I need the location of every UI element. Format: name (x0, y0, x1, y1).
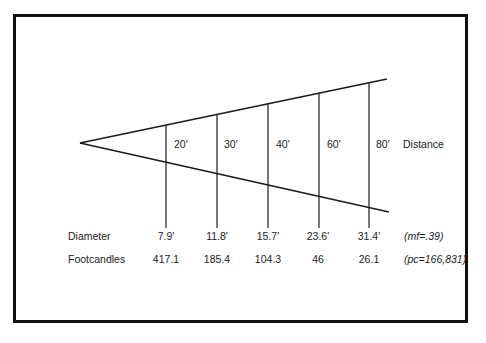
footcandles-value-30: 185.4 (204, 253, 230, 265)
distance-heading: Distance (403, 138, 444, 150)
diameter-value-20: 7.9' (158, 230, 175, 242)
cone-upper-edge (80, 79, 387, 143)
diameter-value-60: 23.6' (307, 230, 329, 242)
footcandles-value-80: 26.1 (359, 253, 379, 265)
diameter-note: (mf=.39) (404, 230, 443, 242)
diameter-value-40: 15.7' (257, 230, 279, 242)
footcandles-value-40: 104.3 (255, 253, 281, 265)
distance-label-40: 40' (276, 138, 290, 150)
light-beam-cone-diagram (0, 0, 486, 343)
diameter-value-80: 31.4' (358, 230, 380, 242)
footcandles-note: (pc=166,831) (404, 253, 466, 265)
footcandles-value-60: 46 (312, 253, 324, 265)
cone-lower-edge (80, 143, 389, 212)
diameter-value-30: 11.8' (206, 230, 228, 242)
distance-label-80: 80' (376, 138, 390, 150)
distance-label-20: 20' (174, 138, 188, 150)
diameter-row-label: Diameter (68, 230, 111, 242)
distance-label-60: 60' (327, 138, 341, 150)
footcandles-row-label: Footcandles (68, 253, 125, 265)
distance-label-30: 30' (224, 138, 238, 150)
footcandles-value-20: 417.1 (153, 253, 179, 265)
